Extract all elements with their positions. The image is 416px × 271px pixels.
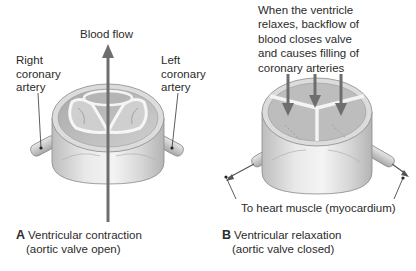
left-coronary-label: Left coronary artery [161, 54, 206, 95]
blood-flow-label: Blood flow [80, 28, 133, 42]
panel-a-caption: AVentricular contraction (aortic valve o… [16, 228, 142, 256]
panel-a-letter: A [16, 228, 25, 242]
heart-muscle-label: To heart muscle (myocardium) [241, 202, 396, 216]
right-coronary-label: Right coronary artery [16, 54, 61, 95]
panel-b-caption: BVentricular relaxation (aortic valve cl… [222, 228, 341, 256]
panel-b-letter: B [222, 228, 231, 242]
backflow-note: When the ventricle relaxes, backflow of … [258, 3, 359, 75]
valve-closed-illustration [224, 74, 409, 199]
